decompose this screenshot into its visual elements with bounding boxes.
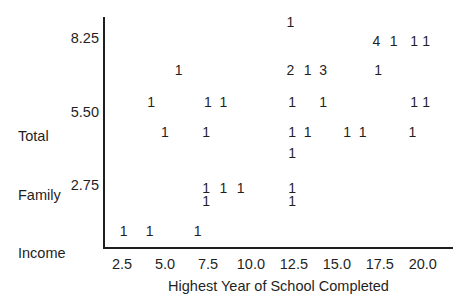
x-axis-line — [103, 247, 453, 249]
scatterplot-figure: Total Family Income Highest Year of Scho… — [0, 0, 465, 306]
data-point-marker: 1 — [304, 63, 312, 77]
data-point-marker: 1 — [343, 125, 351, 139]
x-tick-label: 2.5 — [112, 257, 132, 272]
y-axis-title: Total Family Income — [18, 88, 66, 303]
data-point-marker: 3 — [319, 63, 327, 77]
data-point-marker: 1 — [410, 34, 418, 48]
data-point-marker: 1 — [161, 125, 169, 139]
x-tick-label: 20.0 — [409, 257, 437, 272]
data-point-marker: 1 — [120, 224, 128, 238]
y-tick-label: 8.25 — [54, 32, 99, 47]
data-point-marker: 1 — [390, 34, 398, 48]
data-point-marker: 1 — [146, 224, 154, 238]
data-point-marker: 1 — [288, 146, 296, 160]
data-point-marker: 1 — [374, 63, 382, 77]
data-point-marker: 1 — [410, 95, 418, 109]
data-point-marker: 2 — [287, 63, 295, 77]
y-axis-title-line-3: Income — [18, 244, 66, 264]
data-point-marker: 1 — [319, 95, 327, 109]
data-point-marker: 1 — [422, 34, 430, 48]
x-tick-label: 10.0 — [237, 257, 265, 272]
x-tick-label: 7.5 — [198, 257, 218, 272]
data-point-marker: 1 — [409, 125, 417, 139]
y-tick-label: 2.75 — [54, 179, 99, 194]
y-axis-title-line-1: Total — [18, 127, 66, 147]
data-point-marker: 1 — [422, 95, 430, 109]
data-point-marker: 1 — [204, 95, 212, 109]
data-point-marker: 1 — [288, 125, 296, 139]
x-axis-title: Highest Year of School Completed — [104, 279, 453, 294]
data-point-marker: 1 — [194, 224, 202, 238]
data-point-marker: 1 — [147, 95, 155, 109]
data-point-marker: 1 — [359, 125, 367, 139]
x-tick-label: 17.5 — [366, 257, 394, 272]
data-point-marker: 1 — [287, 15, 295, 29]
data-point-marker: 1 — [202, 125, 210, 139]
x-tick-label: 5.0 — [155, 257, 175, 272]
data-point-marker: 1 — [288, 95, 296, 109]
data-point-marker: 1 — [220, 95, 228, 109]
y-axis-line — [103, 17, 105, 248]
data-point-marker: 1 — [175, 63, 183, 77]
data-point-marker: 1 — [237, 181, 245, 195]
x-tick-label: 15.0 — [323, 257, 351, 272]
y-tick-label: 5.50 — [54, 105, 99, 120]
x-tick-label: 12.5 — [280, 257, 308, 272]
data-point-marker: 1 — [202, 194, 210, 208]
data-point-marker: 4 — [372, 34, 380, 48]
data-point-marker: 1 — [304, 125, 312, 139]
data-point-marker: 1 — [288, 194, 296, 208]
data-point-marker: 1 — [220, 181, 228, 195]
